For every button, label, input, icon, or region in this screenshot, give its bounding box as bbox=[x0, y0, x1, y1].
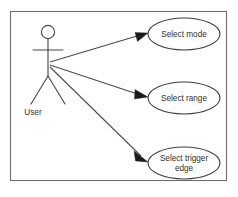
actor-label: User bbox=[24, 108, 42, 117]
usecase-label: Select range bbox=[161, 94, 207, 103]
usecase-label: Select mode bbox=[161, 30, 207, 39]
diagram-canvas: User Select mode Select range bbox=[0, 0, 238, 197]
usecase-label-line-1: Select trigger bbox=[160, 154, 209, 163]
usecase-label-line-2: edge bbox=[175, 164, 194, 173]
actor-head-icon bbox=[41, 25, 54, 38]
usecase-select-mode[interactable]: Select mode bbox=[148, 18, 220, 50]
usecase-select-range[interactable]: Select range bbox=[148, 82, 220, 114]
usecase-select-trigger-edge[interactable]: Select trigger edge bbox=[148, 147, 220, 179]
use-case-diagram: User Select mode Select range bbox=[0, 0, 238, 197]
